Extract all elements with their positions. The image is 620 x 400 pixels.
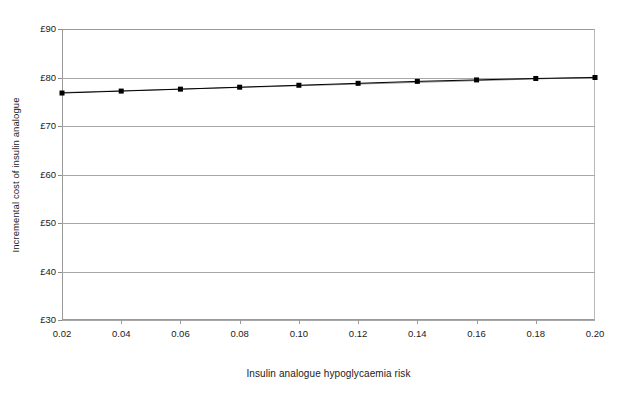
- x-tick-mark: [121, 320, 122, 324]
- x-tick-label: 0.02: [42, 329, 82, 339]
- x-tick-mark: [417, 320, 418, 324]
- data-point-marker: [415, 79, 420, 84]
- x-tick-label: 0.08: [220, 329, 260, 339]
- x-tick-label: 0.12: [338, 329, 378, 339]
- data-point-marker: [296, 83, 301, 88]
- x-tick-label: 0.16: [457, 329, 497, 339]
- y-tick-label: £70: [14, 121, 56, 131]
- x-tick-mark: [477, 320, 478, 324]
- x-tick-mark: [180, 320, 181, 324]
- y-tick-label: £90: [14, 24, 56, 34]
- x-tick-label: 0.20: [575, 329, 615, 339]
- data-point-marker: [119, 89, 124, 94]
- data-point-marker: [356, 81, 361, 86]
- y-tick-label: £40: [14, 267, 56, 277]
- y-tick-label: £60: [14, 170, 56, 180]
- x-tick-label: 0.06: [160, 329, 200, 339]
- data-point-marker: [533, 76, 538, 81]
- x-tick-label: 0.14: [397, 329, 437, 339]
- data-point-marker: [237, 85, 242, 90]
- x-axis-title: Insulin analogue hypoglycaemia risk: [62, 368, 595, 379]
- x-tick-label: 0.10: [279, 329, 319, 339]
- y-tick-label: £50: [14, 218, 56, 228]
- clipped-caption: [0, 393, 620, 400]
- x-tick-mark: [536, 320, 537, 324]
- data-point-marker: [60, 91, 65, 96]
- plot-area: [62, 29, 595, 320]
- x-tick-label: 0.18: [516, 329, 556, 339]
- data-series-svg: [62, 29, 595, 320]
- data-point-marker: [593, 75, 598, 80]
- y-tick-label: £30: [14, 315, 56, 325]
- gridline: [62, 320, 595, 321]
- x-tick-mark: [358, 320, 359, 324]
- data-point-marker: [474, 77, 479, 82]
- x-tick-label: 0.04: [101, 329, 141, 339]
- data-point-marker: [178, 87, 183, 92]
- x-tick-mark: [299, 320, 300, 324]
- y-tick-label: £80: [14, 73, 56, 83]
- chart-figure: Incremental cost of insulin analogue £90…: [0, 0, 620, 400]
- x-tick-mark: [240, 320, 241, 324]
